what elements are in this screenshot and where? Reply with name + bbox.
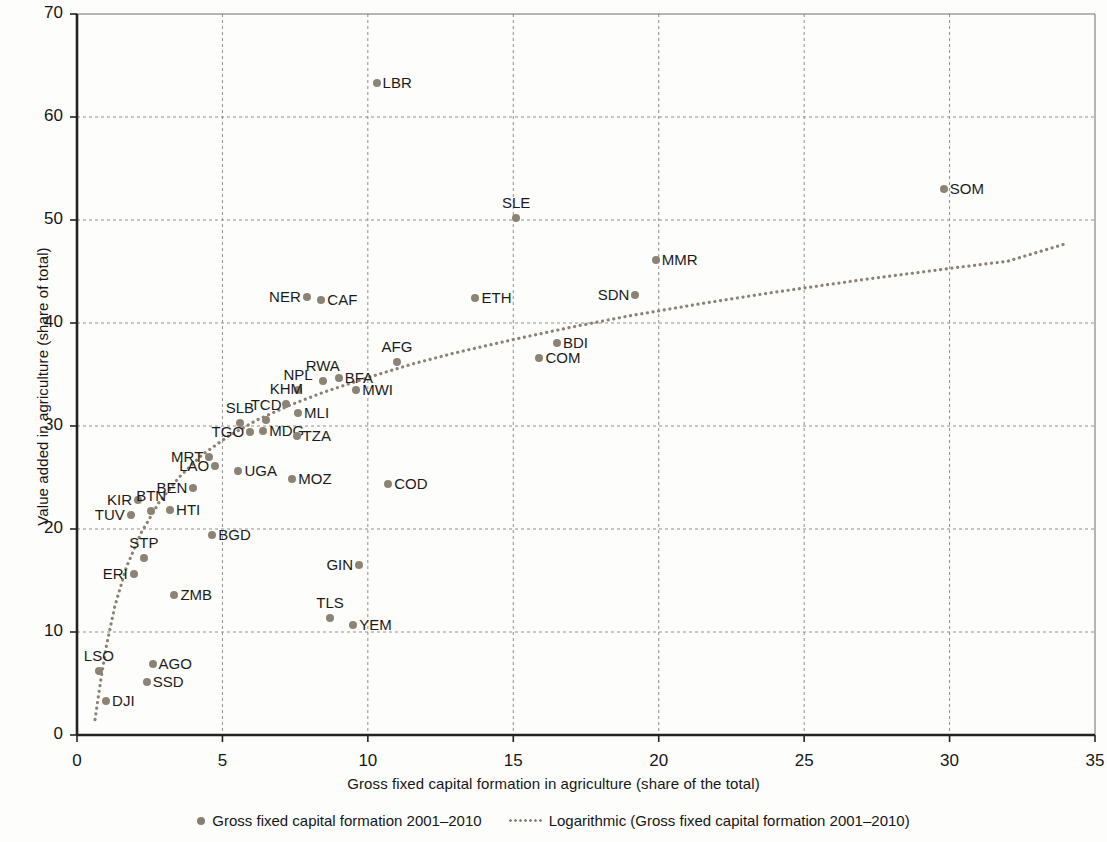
data-point[interactable] [553, 339, 561, 347]
data-point-label: COM [545, 349, 580, 366]
x-tick-label: 5 [192, 751, 252, 771]
data-point-label: SLE [502, 194, 530, 211]
y-tick-label: 10 [17, 621, 63, 641]
data-point-label: ZMB [180, 586, 212, 603]
data-point-label: MWI [362, 381, 393, 398]
data-point-label: TGO [212, 423, 245, 440]
data-point[interactable] [652, 256, 660, 264]
legend-label-scatter: Gross fixed capital formation 2001–2010 [212, 812, 481, 829]
data-point-label: BTN [136, 487, 166, 504]
data-point-label: TZA [303, 427, 331, 444]
data-point-label: ERI [103, 565, 128, 582]
data-point[interactable] [335, 374, 343, 382]
data-point-label: DJI [112, 692, 135, 709]
legend-label-trendline: Logarithmic (Gross fixed capital formati… [549, 812, 910, 829]
data-point-label: TCD [251, 396, 282, 413]
data-point-label: TLS [316, 594, 344, 611]
data-point-label: SSD [153, 673, 184, 690]
x-tick-label: 0 [47, 751, 107, 771]
trendline [95, 244, 1066, 720]
data-point-label: NER [269, 288, 301, 305]
data-point-label: ETH [481, 289, 511, 306]
plot-area [0, 0, 1107, 842]
data-point-label: MMR [662, 251, 698, 268]
y-tick-label: 0 [17, 724, 63, 744]
x-tick-label: 30 [920, 751, 980, 771]
data-point-label: GIN [326, 556, 353, 573]
legend-dotted-line-icon [508, 819, 542, 822]
x-tick-label: 20 [629, 751, 689, 771]
scatter-chart: 010203040506070 05101520253035 LBRSOMSLE… [0, 0, 1107, 842]
data-point[interactable] [319, 377, 327, 385]
data-point-label: MLI [304, 404, 329, 421]
data-point-label: SDN [598, 286, 630, 303]
data-point-label: BGD [218, 526, 251, 543]
data-point-label: HTI [176, 501, 200, 518]
data-point-label: LAO [179, 457, 209, 474]
x-tick-label: 25 [774, 751, 834, 771]
data-point-label: AGO [159, 655, 192, 672]
data-point-label: STP [129, 534, 158, 551]
data-point-label: LBR [383, 74, 412, 91]
data-point[interactable] [130, 570, 138, 578]
data-point[interactable] [293, 432, 301, 440]
data-point-label: AFG [382, 338, 413, 355]
data-point-label: BDI [563, 334, 588, 351]
data-point[interactable] [373, 79, 381, 87]
data-point-label: YEM [359, 616, 392, 633]
data-point-label: TUV [95, 506, 125, 523]
chart-legend: Gross fixed capital formation 2001–2010 … [0, 812, 1107, 829]
gridlines [77, 14, 1095, 735]
data-point-label: LSO [84, 647, 114, 664]
data-point[interactable] [303, 293, 311, 301]
data-point[interactable] [940, 185, 948, 193]
data-point-label: COD [394, 475, 427, 492]
data-point-label: UGA [244, 462, 277, 479]
data-point[interactable] [149, 660, 157, 668]
plot-frame [70, 14, 1095, 742]
x-axis-title: Gross fixed capital formation in agricul… [0, 775, 1107, 792]
x-tick-label: 10 [338, 751, 398, 771]
data-point[interactable] [140, 554, 148, 562]
data-point[interactable] [326, 614, 334, 622]
data-point-label: SLB [226, 399, 254, 416]
data-point-label: CAF [327, 291, 357, 308]
legend-dot-icon [197, 817, 205, 825]
data-point-label: SOM [950, 180, 984, 197]
data-point[interactable] [288, 475, 296, 483]
data-point[interactable] [384, 480, 392, 488]
data-point-label: MOZ [298, 470, 331, 487]
y-axis-title: Value added in agriculture (share of tot… [34, 177, 51, 597]
y-tick-label: 70 [17, 3, 63, 23]
data-point-label: KHM [270, 380, 303, 397]
legend-item-trendline: Logarithmic (Gross fixed capital formati… [508, 812, 910, 829]
x-tick-label: 15 [483, 751, 543, 771]
data-point[interactable] [95, 667, 103, 675]
data-point[interactable] [127, 511, 135, 519]
data-point[interactable] [294, 409, 302, 417]
y-tick-label: 60 [17, 106, 63, 126]
legend-item-scatter: Gross fixed capital formation 2001–2010 [197, 812, 481, 829]
x-tick-label: 35 [1065, 751, 1107, 771]
